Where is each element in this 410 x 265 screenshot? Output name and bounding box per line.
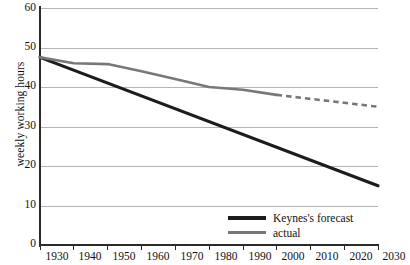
legend-item-actual: actual <box>228 225 378 240</box>
x-tick <box>175 245 176 250</box>
y-tick-label: 30 <box>6 120 36 132</box>
y-axis-line <box>39 6 41 247</box>
x-tick <box>40 245 41 250</box>
x-tick <box>209 245 210 250</box>
y-tick-label: 40 <box>6 80 36 92</box>
legend-item-keynes-forecast: Keynes's forecast <box>228 210 378 225</box>
legend: Keynes's forecast actual <box>228 210 378 240</box>
x-tick-label: 2030 <box>374 251 410 263</box>
x-tick <box>73 245 74 250</box>
y-tick-label: 10 <box>6 199 36 211</box>
legend-label: actual <box>273 227 300 239</box>
x-tick <box>276 245 277 250</box>
gridline-50 <box>40 48 378 49</box>
y-tick-label: 20 <box>6 159 36 171</box>
x-tick <box>141 245 142 250</box>
legend-swatch-line-icon <box>228 231 266 234</box>
legend-label: Keynes's forecast <box>273 212 353 224</box>
gridline-10 <box>40 206 378 207</box>
y-tick-label: 0 <box>6 238 36 250</box>
gridline-20 <box>40 166 378 167</box>
legend-swatch-line-icon <box>228 216 266 220</box>
y-tick-label: 60 <box>6 2 36 14</box>
y-tick-label: 50 <box>6 41 36 53</box>
y-axis-tick-labels: 60 50 40 30 20 10 0 <box>4 0 36 265</box>
x-tick <box>378 245 379 250</box>
gridline-30 <box>40 127 378 128</box>
x-tick <box>243 245 244 250</box>
x-tick <box>107 245 108 250</box>
gridline-40 <box>40 87 378 88</box>
x-tick <box>344 245 345 250</box>
gridline-60 <box>40 8 378 9</box>
x-tick <box>310 245 311 250</box>
